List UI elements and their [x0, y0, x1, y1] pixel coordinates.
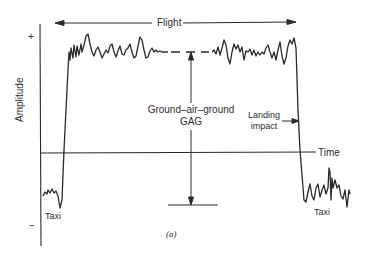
y-minus-label: −	[29, 220, 35, 231]
gag-label-line2: GAG	[180, 116, 202, 127]
time-axis	[40, 152, 316, 153]
figure-caption: (a)	[166, 229, 177, 239]
landing-label-line2: impact	[251, 121, 278, 131]
taxi-left-label: Taxi	[45, 211, 61, 221]
flight-label: Flight	[155, 17, 183, 28]
landing-impact-arrow	[282, 119, 299, 124]
gag-range-arrow	[168, 52, 218, 205]
gag-label-line1: Ground–air–ground	[148, 104, 235, 115]
time-label: Time	[318, 147, 340, 158]
amplitude-axis	[40, 24, 41, 246]
y-plus-label: +	[28, 31, 34, 42]
gag-diagram	[0, 0, 366, 262]
y-axis-label: Amplitude	[14, 78, 25, 122]
landing-label-line1: Landing	[248, 110, 280, 120]
taxi-right-label: Taxi	[314, 207, 330, 217]
